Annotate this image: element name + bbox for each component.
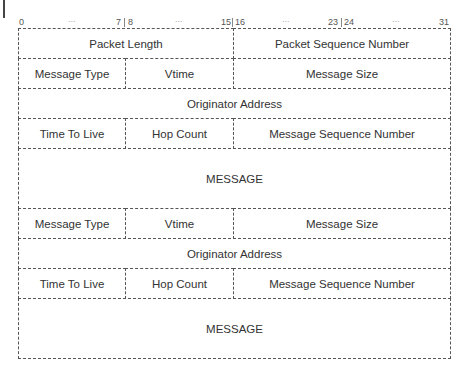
ruler-tick [124, 18, 125, 27]
margin-mark [3, 0, 5, 18]
field-message: MESSAGE [18, 298, 451, 359]
field-message-size: Message Size [233, 208, 451, 239]
bit-label-7: 7 [116, 17, 121, 27]
bit-label-0: 0 [19, 17, 24, 27]
field-hop-count: Hop Count [125, 268, 234, 299]
ruler-tick [232, 18, 233, 27]
field-message-sequence-number: Message Sequence Number [233, 118, 451, 149]
ruler-ellipsis: ... [282, 14, 290, 24]
bit-label-15: 15 [221, 17, 231, 27]
field-vtime: Vtime [125, 208, 234, 239]
field-message-size: Message Size [233, 58, 451, 89]
field-message-type: Message Type [18, 58, 126, 89]
field-hop-count: Hop Count [125, 118, 234, 149]
bit-label-16: 16 [235, 17, 245, 27]
bit-label-23: 23 [328, 17, 338, 27]
field-packet-sequence-number: Packet Sequence Number [233, 28, 451, 59]
field-message-sequence-number: Message Sequence Number [233, 268, 451, 299]
field-vtime: Vtime [125, 58, 234, 89]
field-time-to-live: Time To Live [18, 268, 126, 299]
field-message: MESSAGE [18, 148, 451, 209]
bit-label-31: 31 [439, 17, 449, 27]
field-packet-length: Packet Length [18, 28, 234, 59]
ruler-ellipsis: ... [68, 14, 76, 24]
field-message-type: Message Type [18, 208, 126, 239]
field-time-to-live: Time To Live [18, 118, 126, 149]
field-originator-address: Originator Address [18, 238, 451, 269]
ruler-tick [341, 18, 342, 27]
bit-label-24: 24 [344, 17, 354, 27]
field-originator-address: Originator Address [18, 88, 451, 119]
bit-label-8: 8 [128, 17, 133, 27]
ruler-ellipsis: ... [392, 14, 400, 24]
ruler-ellipsis: ... [175, 14, 183, 24]
